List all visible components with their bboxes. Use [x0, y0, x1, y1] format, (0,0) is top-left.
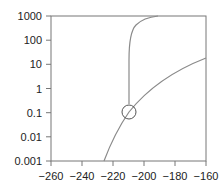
- y-tick-label: 1000: [18, 10, 42, 22]
- x-tick-label: −200: [132, 170, 157, 182]
- x-tick-label: −160: [194, 170, 219, 182]
- y-tick-label: 0.1: [27, 107, 42, 119]
- x-tick-label: −220: [101, 170, 126, 182]
- y-tick-label: 1: [36, 83, 42, 95]
- x-tick-labels: −260 −240 −220 −200 −180 −160: [39, 170, 219, 182]
- x-tick-label: −240: [70, 170, 95, 182]
- y-tick-label: 0.01: [21, 131, 42, 143]
- y-tick-labels: 1000 100 10 1 0.1 0.01 0.001: [14, 10, 42, 167]
- series-steep-curve: [129, 16, 158, 104]
- chart: 1000 100 10 1 0.1 0.01 0.001 −260 −240 −…: [0, 0, 222, 192]
- x-tick-label: −180: [163, 170, 188, 182]
- y-tick-label: 10: [30, 58, 42, 70]
- series-gradual-curve: [104, 58, 206, 161]
- y-axis: [46, 16, 51, 161]
- x-axis: [51, 161, 206, 166]
- y-tick-label: 0.001: [14, 155, 42, 167]
- y-tick-label: 100: [24, 34, 42, 46]
- x-tick-label: −260: [39, 170, 64, 182]
